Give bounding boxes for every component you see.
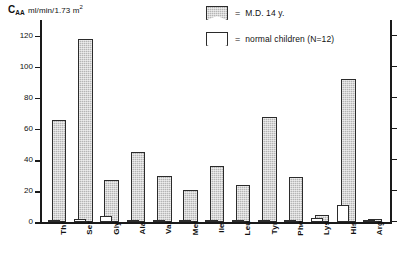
right-axis-tick-0 — [392, 221, 397, 222]
bar-normal-tyr — [258, 220, 270, 222]
bar-group-tyr — [257, 20, 283, 224]
bar-group-thr — [46, 20, 72, 224]
bar-group-arg — [362, 20, 388, 224]
bar-group-met — [178, 20, 204, 224]
x-axis-label-his: His — [349, 221, 358, 234]
legend-item-md: = M.D. 14 y. — [206, 6, 334, 20]
bar-normal-leu — [232, 220, 244, 222]
x-axis-label-tyr: Tyr — [270, 222, 279, 234]
y-axis-tick-label: 20 — [24, 187, 33, 195]
y-axis-tick-label: 0 — [29, 218, 33, 226]
y-axis-title-subscript: AA — [15, 9, 25, 16]
x-axis-label-cell: His — [335, 226, 361, 256]
bar-md-leu — [236, 185, 250, 222]
x-axis-label-cell: Met — [178, 226, 204, 256]
bar-md-ile — [210, 166, 224, 222]
y-axis-tick-label: 120 — [20, 32, 33, 40]
bar-md-ser — [78, 39, 92, 222]
bar-normal-val — [153, 220, 165, 222]
plot-area: 020406080100120 — [40, 20, 392, 224]
bar-group-lys — [309, 20, 335, 224]
bar-normal-ser — [74, 219, 86, 222]
x-axis-tick-labels: ThrSerGlyAlaValMetIleLeuTyrPheLysHisArg — [40, 226, 392, 256]
x-axis-label-cell: Val — [151, 226, 177, 256]
hatched-grey-swatch-icon — [206, 6, 228, 20]
legend-label-md: M.D. 14 y. — [245, 8, 284, 18]
legend-equals-sign-0: = — [235, 8, 240, 18]
x-axis-label-cell: Ser — [72, 226, 98, 256]
y-axis-title-units: ml/min/1.73 m — [28, 6, 80, 15]
bar-group-ala — [125, 20, 151, 224]
x-axis-label-cell: Arg — [362, 226, 388, 256]
x-axis-label-cell: Ala — [125, 226, 151, 256]
right-axis-tick-100 — [392, 66, 397, 67]
x-axis-label-ala: Ala — [138, 221, 147, 234]
bar-md-phe — [289, 177, 303, 222]
x-axis-label-met: Met — [191, 221, 200, 235]
x-axis-label-phe: Phe — [296, 220, 305, 235]
right-axis-tick-40 — [392, 159, 397, 160]
bar-md-met — [183, 190, 197, 223]
right-axis-tick-80 — [392, 97, 397, 98]
x-axis-label-thr: Thr — [59, 221, 68, 235]
y-axis-tick-label: 40 — [24, 156, 33, 164]
y-axis-tick-label: 100 — [20, 63, 33, 71]
x-axis-label-cell: Gly — [99, 226, 125, 256]
bar-md-thr — [52, 120, 66, 223]
bar-normal-met — [179, 220, 191, 222]
bar-md-his — [341, 79, 355, 222]
y-axis-tick-label: 60 — [24, 125, 33, 133]
bar-normal-gly — [100, 216, 112, 222]
bar-group-val — [151, 20, 177, 224]
bar-normal-his — [337, 205, 349, 222]
bar-group-his — [335, 20, 361, 224]
bar-normal-arg — [363, 220, 375, 222]
bar-md-ala — [131, 152, 145, 222]
x-axis-label-arg: Arg — [375, 221, 384, 235]
x-axis-label-cell: Phe — [283, 226, 309, 256]
bar-normal-thr — [48, 220, 60, 222]
right-axis-tick-120 — [392, 35, 397, 36]
right-axis-tick-20 — [392, 190, 397, 191]
bar-normal-phe — [284, 220, 296, 222]
bar-group-ser — [72, 20, 98, 224]
x-axis-label-gly: Gly — [112, 221, 121, 235]
bar-md-val — [157, 176, 171, 223]
y-axis-title: CAAml/min/1.73 m2 — [8, 4, 83, 16]
bar-md-tyr — [262, 117, 276, 223]
bar-normal-ala — [127, 220, 139, 222]
bar-series-container — [40, 20, 392, 224]
x-axis-label-cell: Ile — [204, 226, 230, 256]
x-axis-label-leu: Leu — [243, 221, 252, 236]
bar-normal-lys — [311, 218, 323, 223]
chart-figure: CAAml/min/1.73 m2 = M.D. 14 y. = normal … — [0, 0, 409, 257]
bar-group-leu — [230, 20, 256, 224]
right-axis-tick-60 — [392, 128, 397, 129]
x-axis-label-ile: Ile — [217, 223, 226, 233]
x-axis-label-ser: Ser — [85, 221, 94, 235]
bar-group-ile — [204, 20, 230, 224]
x-axis-label-cell: Lys — [309, 226, 335, 256]
x-axis-label-cell: Tyr — [257, 226, 283, 256]
bar-group-gly — [99, 20, 125, 224]
x-axis-label-lys: Lys — [322, 221, 331, 235]
bar-group-phe — [283, 20, 309, 224]
bar-normal-ile — [205, 220, 217, 222]
y-axis-title-units-exponent: 2 — [79, 4, 82, 10]
x-axis-label-cell: Thr — [46, 226, 72, 256]
x-axis-label-val: Val — [164, 222, 173, 234]
x-axis-label-cell: Leu — [230, 226, 256, 256]
y-axis-tick-label: 80 — [24, 94, 33, 102]
